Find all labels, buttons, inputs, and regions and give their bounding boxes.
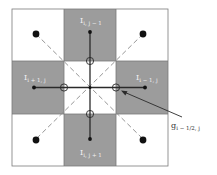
point-right [143, 86, 147, 90]
point-top-left [33, 31, 40, 38]
annotation-label: gi − 1/2, j [171, 121, 200, 132]
point-bottom-left [33, 137, 40, 144]
point-top [88, 30, 92, 34]
finite-difference-stencil-diagram: Ii, j − 1 Ii + 1, j Ii − 1, j Ii, j + 1 … [0, 0, 217, 175]
point-bottom [88, 137, 92, 141]
point-left [32, 86, 36, 90]
point-bottom-right [140, 137, 147, 144]
point-center [89, 86, 92, 89]
point-top-right [140, 31, 147, 38]
